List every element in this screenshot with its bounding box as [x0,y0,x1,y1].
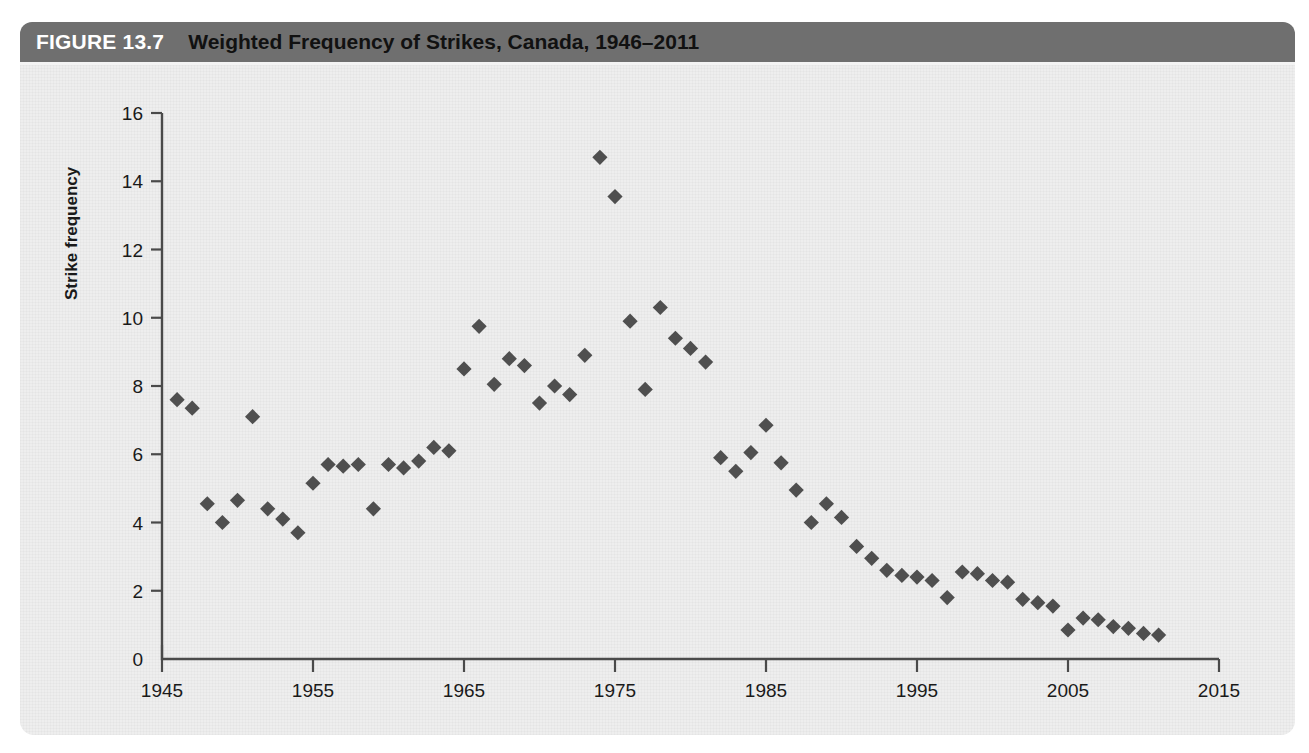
data-point-markers [170,150,1167,643]
chart-axes [162,113,1219,659]
svg-text:1945: 1945 [141,680,183,701]
svg-text:1955: 1955 [292,680,334,701]
svg-text:0: 0 [132,649,143,670]
svg-text:10: 10 [122,308,143,329]
y-axis-ticks: 0246810121416 [122,103,162,670]
figure-panel: FIGURE 13.7 Weighted Frequency of Strike… [0,0,1309,753]
svg-text:14: 14 [122,171,144,192]
svg-text:1965: 1965 [443,680,485,701]
svg-text:2005: 2005 [1047,680,1089,701]
svg-text:2: 2 [132,581,143,602]
y-axis-title: Strike frequency [62,100,82,300]
svg-text:8: 8 [132,376,143,397]
svg-text:4: 4 [132,513,143,534]
plot-area: Strike frequency 0246810121416 194519551… [0,0,1309,753]
svg-text:12: 12 [122,240,143,261]
x-axis-ticks: 19451955196519751985199520052015 [141,645,1240,701]
scatter-plot-svg: 0246810121416 19451955196519751985199520… [0,0,1309,753]
svg-text:6: 6 [132,444,143,465]
svg-text:16: 16 [122,103,143,124]
svg-text:1975: 1975 [594,680,636,701]
svg-text:2015: 2015 [1198,680,1240,701]
svg-text:1985: 1985 [745,680,787,701]
svg-text:1995: 1995 [896,680,938,701]
